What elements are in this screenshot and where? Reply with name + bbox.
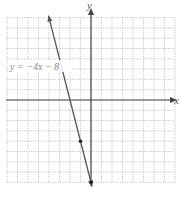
y-axis-label: y bbox=[86, 0, 92, 11]
line-series bbox=[48, 16, 92, 187]
plot-line bbox=[47, 16, 93, 187]
equation-label: y = −4x − 8 bbox=[9, 61, 59, 72]
data-point bbox=[89, 181, 93, 185]
coordinate-plane: x y y = −4x − 8 bbox=[0, 0, 181, 200]
data-point bbox=[79, 139, 83, 143]
x-axis-label: x bbox=[173, 94, 179, 106]
